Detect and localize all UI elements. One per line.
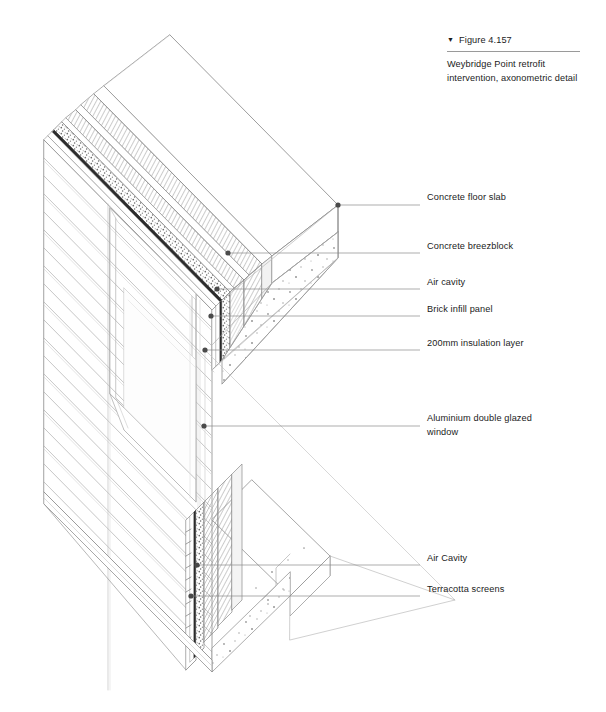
caption-divider — [447, 51, 580, 52]
figure-page: ▼ Figure 4.157 Weybridge Point retrofit … — [0, 0, 606, 712]
figure-caption-block: ▼ Figure 4.157 Weybridge Point retrofit … — [447, 34, 583, 85]
callout-label-aluminium-window: Aluminium double glazed window — [427, 412, 532, 439]
triangle-down-icon: ▼ — [447, 33, 454, 46]
callout-label-concrete-breezblock: Concrete breezblock — [427, 240, 513, 254]
callout-label-air-cavity-lower: Air Cavity — [427, 552, 467, 566]
callout-label-terracotta-screens: Terracotta screens — [427, 583, 504, 597]
callout-label-concrete-floor-slab: Concrete floor slab — [427, 191, 506, 205]
figure-caption-text: Weybridge Point retrofit intervention, a… — [447, 58, 583, 85]
axonometric-detail-drawing — [0, 0, 606, 712]
callout-label-brick-infill-panel: Brick infill panel — [427, 303, 493, 317]
callout-label-insulation-layer: 200mm insulation layer — [427, 337, 524, 351]
lower-floor-slab — [212, 480, 455, 672]
callout-label-air-cavity-upper: Air cavity — [427, 276, 465, 290]
figure-number-row: ▼ Figure 4.157 — [447, 34, 583, 47]
figure-number: Figure 4.157 — [459, 34, 512, 47]
